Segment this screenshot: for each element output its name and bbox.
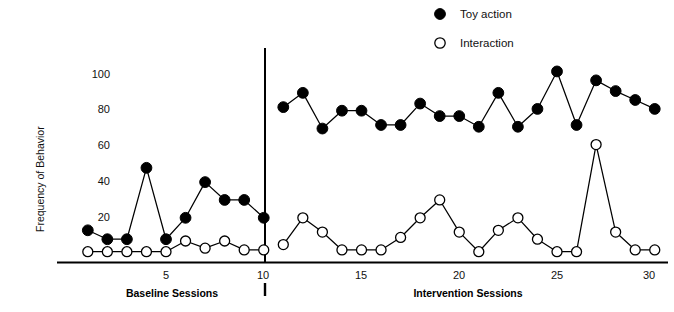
data-point-marker <box>122 234 133 245</box>
data-point-marker <box>239 195 250 206</box>
data-point-marker <box>278 240 288 250</box>
data-point-marker <box>552 247 562 257</box>
y-tick-label: 40 <box>98 175 110 187</box>
data-point-marker <box>317 227 327 237</box>
phase-label-baseline: Baseline Sessions <box>126 287 218 299</box>
data-point-marker <box>649 104 660 115</box>
y-tick-label: 100 <box>92 68 110 80</box>
data-point-marker <box>258 212 269 223</box>
data-point-marker <box>591 140 601 150</box>
data-point-marker <box>141 247 151 257</box>
data-point-marker <box>220 236 230 246</box>
data-point-marker <box>122 247 132 257</box>
data-point-marker <box>297 87 308 98</box>
legend-label-interaction: Interaction <box>460 37 514 49</box>
data-point-marker <box>572 247 582 257</box>
series-toy-action <box>82 66 660 245</box>
data-point-marker <box>337 245 347 255</box>
x-tick-label: 30 <box>643 269 655 281</box>
series-line-segment <box>88 241 264 252</box>
data-point-marker <box>474 247 484 257</box>
data-point-marker <box>454 227 464 237</box>
x-tick-label: 20 <box>453 269 465 281</box>
data-point-marker <box>473 121 484 132</box>
data-point-marker <box>513 121 524 132</box>
data-point-marker <box>219 195 230 206</box>
series-line-segment <box>283 145 654 252</box>
data-point-marker <box>239 245 249 255</box>
legend-marker-filled-circle-icon <box>435 9 446 20</box>
x-tick-label: 10 <box>257 269 269 281</box>
data-point-marker <box>532 234 542 244</box>
data-point-marker <box>630 245 640 255</box>
data-point-marker <box>161 234 172 245</box>
data-point-marker <box>102 234 113 245</box>
data-point-marker <box>532 104 543 115</box>
data-point-marker <box>102 247 112 257</box>
data-point-marker <box>650 245 660 255</box>
legend-marker-open-circle-icon <box>435 38 445 48</box>
legend-label-toy-action: Toy action <box>460 8 512 20</box>
data-point-marker <box>610 86 621 97</box>
line-chart-plot: 100 80 60 40 20 0 Frequency of Behavior … <box>0 0 674 312</box>
data-point-marker <box>591 75 602 86</box>
data-point-marker <box>435 195 445 205</box>
phase-label-intervention: Intervention Sessions <box>413 287 522 299</box>
y-tick-label: 60 <box>98 139 110 151</box>
data-point-marker <box>181 236 191 246</box>
data-point-marker <box>396 232 406 242</box>
data-point-marker <box>317 123 328 134</box>
x-tick-label: 25 <box>551 269 563 281</box>
data-point-marker <box>200 243 210 253</box>
data-point-marker <box>493 225 503 235</box>
data-point-marker <box>434 111 445 122</box>
data-point-marker <box>180 212 191 223</box>
data-point-marker <box>200 177 211 188</box>
data-point-marker <box>415 213 425 223</box>
data-point-marker <box>376 120 387 131</box>
chart-figure: 100 80 60 40 20 0 Frequency of Behavior … <box>0 0 674 312</box>
data-series-layer <box>82 66 660 257</box>
data-point-marker <box>337 105 348 116</box>
y-tick-label: 20 <box>98 211 110 223</box>
data-point-marker <box>415 98 426 109</box>
x-tick-label: 5 <box>163 269 169 281</box>
y-axis-title: Frequency of Behavior <box>34 126 46 232</box>
x-tick-label: 15 <box>355 269 367 281</box>
data-point-marker <box>513 213 523 223</box>
chart-legend: Toy action Interaction <box>435 8 514 49</box>
data-point-marker <box>630 95 641 106</box>
data-point-marker <box>161 247 171 257</box>
data-point-marker <box>141 162 152 173</box>
data-point-marker <box>298 213 308 223</box>
data-point-marker <box>571 120 582 131</box>
x-axis-tick-labels: 5 10 15 20 25 30 <box>163 269 655 281</box>
data-point-marker <box>83 247 93 257</box>
data-point-marker <box>278 102 289 113</box>
data-point-marker <box>259 245 269 255</box>
data-point-marker <box>611 227 621 237</box>
data-point-marker <box>395 120 406 131</box>
data-point-marker <box>376 245 386 255</box>
y-axis-tick-labels: 100 80 60 40 20 0 <box>92 68 110 259</box>
data-point-marker <box>552 66 563 77</box>
data-point-marker <box>82 225 93 236</box>
data-point-marker <box>357 245 367 255</box>
data-point-marker <box>454 111 465 122</box>
data-point-marker <box>356 105 367 116</box>
data-point-marker <box>493 87 504 98</box>
y-tick-label: 80 <box>98 103 110 115</box>
series-line-segment <box>88 168 264 239</box>
